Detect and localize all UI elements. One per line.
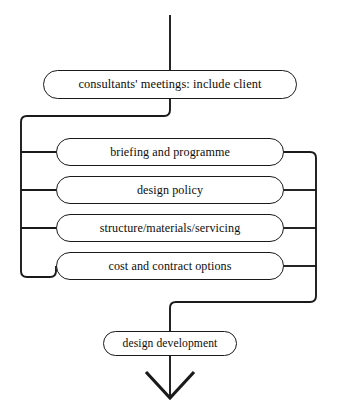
left-branch-stage-3 xyxy=(50,266,56,277)
node-design-development-label: design development xyxy=(123,338,218,350)
node-consultants-meetings[interactable]: consultants' meetings: include client xyxy=(43,70,297,99)
node-structure-materials-servicing[interactable]: structure/materials/servicing xyxy=(56,214,284,242)
right-branch-stage-0 xyxy=(284,152,316,296)
node-briefing-and-programme[interactable]: briefing and programme xyxy=(56,138,284,166)
node-briefing-and-programme-label: briefing and programme xyxy=(110,146,230,158)
flowchart-diagram: consultants' meetings: include client br… xyxy=(0,0,337,408)
node-cost-and-contract-options-label: cost and contract options xyxy=(108,260,231,272)
node-consultants-meetings-label: consultants' meetings: include client xyxy=(78,78,261,90)
node-cost-and-contract-options[interactable]: cost and contract options xyxy=(56,252,284,280)
node-design-policy-label: design policy xyxy=(137,184,203,196)
node-design-development[interactable]: design development xyxy=(103,331,237,356)
node-structure-materials-servicing-label: structure/materials/servicing xyxy=(100,222,241,234)
right-collection-bus xyxy=(170,296,316,331)
node-design-policy[interactable]: design policy xyxy=(56,176,284,204)
